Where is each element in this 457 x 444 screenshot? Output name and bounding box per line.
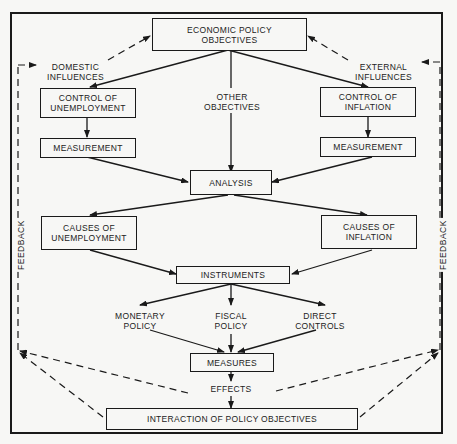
node-measurement-right: MEASUREMENT (320, 137, 416, 157)
label-fiscal-policy: FISCAL POLICY (196, 311, 266, 331)
node-analysis: ANALYSIS (190, 170, 272, 195)
label-other-objectives: OTHER OBJECTIVES (196, 92, 268, 112)
label-effects: EFFECTS (196, 384, 266, 394)
node-causes-of-inflation: CAUSES OF INFLATION (321, 215, 417, 249)
node-control-of-unemployment: CONTROL OF UNEMPLOYMENT (40, 88, 136, 118)
label-monetary-policy: MONETARY POLICY (100, 311, 180, 331)
label-feedback-left: FEEDBACK (16, 218, 26, 272)
node-instruments: INSTRUMENTS (176, 266, 290, 284)
node-measures: MEASURES (190, 353, 274, 372)
node-economic-policy-objectives: ECONOMIC POLICY OBJECTIVES (152, 18, 307, 51)
label-external-influences: EXTERNAL INFLUENCES (346, 62, 421, 82)
node-measurement-left: MEASUREMENT (40, 138, 136, 158)
label-direct-controls: DIRECT CONTROLS (280, 311, 360, 331)
node-causes-of-unemployment: CAUSES OF UNEMPLOYMENT (41, 216, 137, 250)
node-interaction-of-policy-objectives: INTERACTION OF POLICY OBJECTIVES (106, 408, 358, 430)
node-control-of-inflation: CONTROL OF INFLATION (320, 87, 416, 117)
label-domestic-influences: DOMESTIC INFLUENCES (38, 62, 113, 82)
label-feedback-right: FEEDBACK (438, 218, 448, 272)
